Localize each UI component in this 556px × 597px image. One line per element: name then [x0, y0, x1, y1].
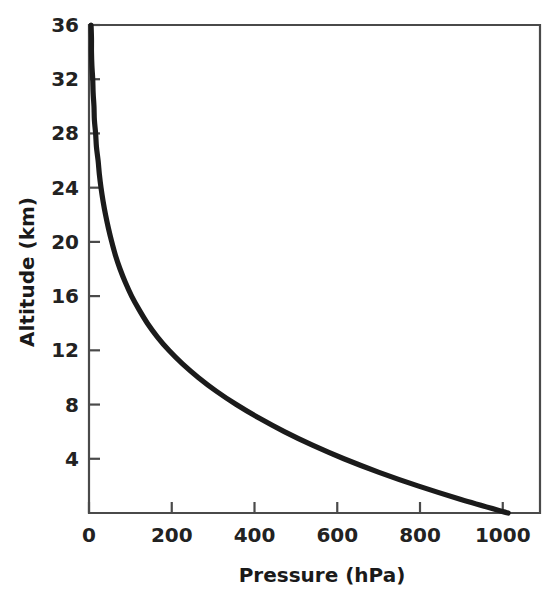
chart-figure: 4812162024283236 02004006008001000 Press…	[0, 0, 556, 597]
x-tick-label: 1000	[475, 523, 531, 547]
y-tick-label: 12	[51, 338, 79, 362]
y-axis-title: Altitude (km)	[15, 197, 39, 347]
y-tick-label: 24	[51, 176, 79, 200]
x-tick-label: 600	[316, 523, 358, 547]
y-tick-label: 20	[51, 230, 79, 254]
x-tick-label: 400	[234, 523, 276, 547]
pressure-altitude-chart: 4812162024283236 02004006008001000 Press…	[0, 0, 556, 597]
x-axis-tick-labels: 02004006008001000	[82, 523, 531, 547]
y-tick-label: 32	[51, 67, 79, 91]
y-tick-label: 16	[51, 284, 79, 308]
y-tick-label: 28	[51, 121, 79, 145]
x-tick-label: 200	[151, 523, 193, 547]
y-tick-label: 8	[65, 393, 79, 417]
y-tick-label: 36	[51, 13, 79, 37]
x-axis-ticks	[89, 502, 503, 513]
y-tick-label: 4	[65, 447, 79, 471]
x-tick-label: 800	[399, 523, 441, 547]
x-axis-title: Pressure (hPa)	[239, 563, 406, 587]
x-tick-label: 0	[82, 523, 96, 547]
axes-frame	[89, 25, 540, 513]
pressure-profile-curve	[91, 25, 508, 513]
y-axis-tick-labels: 4812162024283236	[51, 13, 79, 471]
